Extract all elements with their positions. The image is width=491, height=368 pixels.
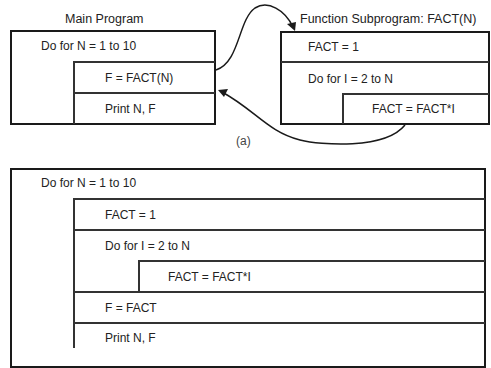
merged-row-divider <box>138 260 485 262</box>
merged-print-statement: Print N, F <box>105 331 156 345</box>
merged-outer-body-edge <box>73 198 75 348</box>
merged-row-divider <box>73 322 485 324</box>
merged-row-divider <box>73 198 485 200</box>
merged-assign-statement: F = FACT <box>105 301 157 315</box>
merged-row-divider <box>73 291 485 293</box>
merged-outer-loop-label: Do for N = 1 to 10 <box>41 176 136 190</box>
merged-fact-multiply: FACT = FACT*I <box>168 270 251 284</box>
merged-inner-loop-label: Do for I = 2 to N <box>105 239 190 253</box>
merged-inner-body-edge <box>138 260 140 291</box>
merged-fact-init: FACT = 1 <box>105 208 156 222</box>
merged-row-divider <box>73 229 485 231</box>
